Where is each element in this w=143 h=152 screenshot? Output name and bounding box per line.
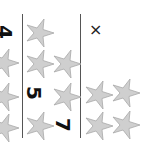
cross-mark: × bbox=[89, 22, 102, 38]
star-icon bbox=[0, 82, 20, 112]
star-icon bbox=[52, 82, 82, 112]
star-icon bbox=[84, 111, 114, 141]
star-icon bbox=[25, 111, 55, 141]
star-icon bbox=[25, 49, 55, 79]
star-icon bbox=[52, 49, 82, 79]
star-icon bbox=[111, 78, 141, 108]
column-divider-left bbox=[22, 14, 23, 138]
star-icon bbox=[84, 80, 114, 110]
star-icon bbox=[111, 110, 141, 140]
digit-seven: 7 bbox=[53, 118, 73, 132]
star-icon bbox=[25, 18, 55, 48]
star-icon bbox=[0, 48, 20, 78]
digit-five: 5 bbox=[24, 86, 44, 100]
digit-four: 4 bbox=[0, 25, 15, 39]
star-icon bbox=[0, 113, 20, 143]
